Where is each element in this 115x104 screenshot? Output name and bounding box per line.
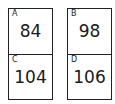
cell-label: D xyxy=(71,55,77,64)
cell-a: A 84 xyxy=(9,9,52,54)
cell-label: C xyxy=(12,55,18,64)
cell-value: 84 xyxy=(9,21,52,41)
cell-value: 106 xyxy=(68,67,111,87)
cell-value: 104 xyxy=(9,67,52,87)
card-left: A 84 C 104 xyxy=(8,8,53,100)
cell-c: C 104 xyxy=(9,54,52,99)
cell-value: 98 xyxy=(68,21,111,41)
cell-d: D 106 xyxy=(68,54,111,99)
cell-b: B 98 xyxy=(68,9,111,54)
cell-label: B xyxy=(71,9,77,18)
card-right: B 98 D 106 xyxy=(67,8,112,100)
cell-label: A xyxy=(12,9,17,18)
